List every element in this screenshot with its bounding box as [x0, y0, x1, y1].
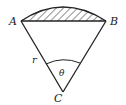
sector-diagram: A B C r θ [0, 0, 126, 105]
label-a: A [8, 15, 17, 28]
label-theta: θ [59, 68, 65, 78]
label-b: B [109, 15, 118, 28]
label-r: r [32, 54, 38, 65]
label-c: C [54, 92, 63, 105]
radius-ca [21, 21, 63, 92]
angle-arc [46, 60, 80, 64]
radius-cb [63, 21, 106, 92]
